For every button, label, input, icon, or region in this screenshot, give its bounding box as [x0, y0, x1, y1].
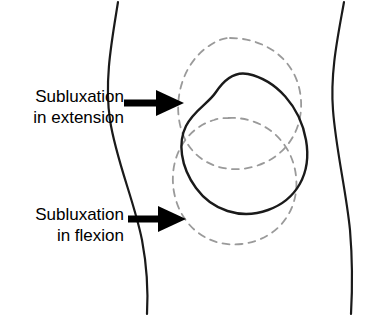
knee-outline-right: [332, 2, 352, 314]
label-flexion-line2: in flexion: [24, 225, 124, 246]
diagram-canvas: Subluxation in extension Subluxation in …: [0, 0, 374, 318]
arrow-flexion: [128, 206, 186, 232]
label-subluxation-in-flexion: Subluxation in flexion: [24, 204, 124, 246]
label-subluxation-in-extension: Subluxation in extension: [4, 86, 124, 128]
knee-outline-left: [108, 2, 148, 314]
label-flexion-line1: Subluxation: [24, 204, 124, 225]
patella-dashed-upper: [178, 38, 301, 169]
arrow-extension: [124, 90, 184, 116]
label-extension-line2: in extension: [4, 107, 124, 128]
label-extension-line1: Subluxation: [4, 86, 124, 107]
knee-subluxation-diagram: [0, 0, 374, 318]
